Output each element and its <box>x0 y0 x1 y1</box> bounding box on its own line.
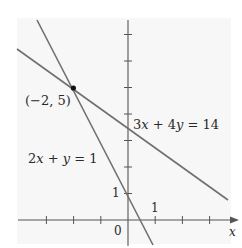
eq2-plus: + 4 <box>153 117 176 132</box>
equation-label-3x-4y-14: 3x + 4y = 14 <box>133 118 219 131</box>
x-tick-label-1: 1 <box>151 202 159 214</box>
eq1-var-x: x <box>36 151 43 166</box>
y-tick-label-1: 1 <box>112 187 120 199</box>
eq1-plus: + <box>48 151 59 166</box>
x-axis-label: x <box>229 226 236 238</box>
eq2-rhs: = 14 <box>188 117 220 132</box>
eq1-rhs: = 1 <box>74 151 97 166</box>
eq2-var-x: x <box>141 117 148 132</box>
equation-label-2x-y-1: 2x + y = 1 <box>28 152 98 165</box>
eq2-var-y: y <box>176 117 183 132</box>
origin-label: 0 <box>114 225 122 237</box>
eq1-var-y: y <box>63 151 70 166</box>
x-axis-arrow-icon <box>230 217 239 224</box>
intersection-label: (−2, 5) <box>25 94 71 107</box>
intersection-point <box>71 85 76 90</box>
